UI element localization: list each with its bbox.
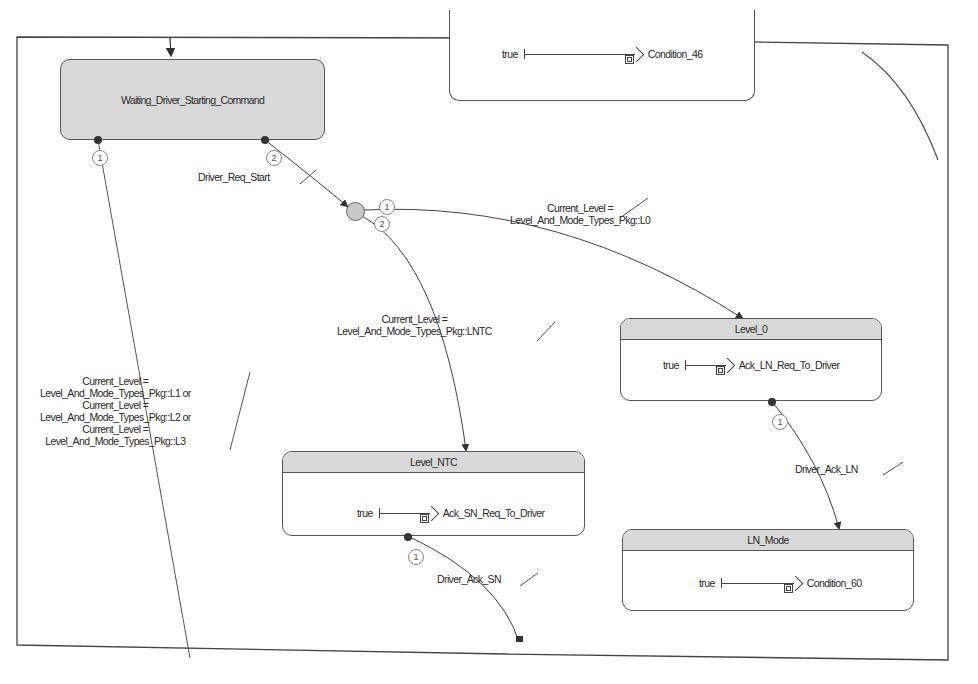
transition-order-badge: 1	[379, 199, 395, 215]
state-name: LN_Mode	[623, 530, 913, 551]
transition-source-dot	[768, 398, 776, 406]
state-name: Level_NTC	[283, 452, 584, 473]
action-condition: true	[663, 359, 679, 371]
transition-source-dot	[94, 136, 102, 144]
action-target: Condition_46	[648, 48, 703, 60]
state-ln-mode[interactable]: LN_Mode true Condition_60	[622, 529, 914, 611]
transition-source-dot	[261, 136, 269, 144]
state-action: true Condition_46	[502, 48, 702, 60]
transition-source-dot	[404, 533, 412, 541]
state-name: Waiting_Driver_Starting_Command	[61, 94, 324, 106]
action-condition: true	[699, 577, 715, 589]
label-line: Level_And_Mode_Types_Pkg::L3	[40, 435, 191, 447]
transition-label-l0[interactable]: Current_Level = Level_And_Mode_Types_Pkg…	[510, 202, 650, 226]
transition-order-badge: 1	[92, 150, 108, 166]
label-line: Level_And_Mode_Types_Pkg::L1 or	[40, 387, 191, 399]
label-line: Level_And_Mode_Types_Pkg::L2 or	[40, 411, 191, 423]
label-line: Level_And_Mode_Types_Pkg::LNTC	[337, 325, 492, 337]
state-action: true Ack_SN_Req_To_Driver	[357, 507, 545, 519]
transition-label-driver-ack-ln[interactable]: Driver_Ack_LN	[795, 463, 858, 475]
action-condition: true	[502, 48, 518, 60]
state-name: Level_0	[621, 319, 881, 340]
transition-order-badge: 2	[374, 216, 390, 232]
label-line: Current_Level =	[40, 399, 191, 411]
state-top-partial[interactable]: true Condition_46	[449, 10, 755, 101]
state-waiting-driver-starting-command[interactable]: Waiting_Driver_Starting_Command	[60, 59, 325, 140]
label-line: Current_Level =	[510, 202, 650, 214]
state-action: true Ack_LN_Req_To_Driver	[663, 359, 839, 371]
label-line: Current_Level =	[40, 375, 191, 387]
action-arrow	[721, 578, 794, 588]
state-level-ntc[interactable]: Level_NTC true Ack_SN_Req_To_Driver	[282, 451, 585, 536]
transition-label-driver-ack-sn[interactable]: Driver_Ack_SN	[437, 573, 501, 585]
label-line: Current_Level =	[337, 313, 492, 325]
transition-label-lntc[interactable]: Current_Level = Level_And_Mode_Types_Pkg…	[337, 313, 492, 337]
state-action: true Condition_60	[699, 577, 861, 589]
action-condition: true	[357, 507, 373, 519]
transition-label-driver-req-start[interactable]: Driver_Req_Start	[198, 171, 270, 183]
action-arrow	[524, 49, 635, 59]
junction-node[interactable]	[346, 202, 365, 221]
action-arrow	[379, 508, 430, 518]
label-line: Level_And_Mode_Types_Pkg::L0	[510, 214, 650, 226]
transition-order-badge: 1	[408, 549, 424, 565]
diagram-canvas: Waiting_Driver_Starting_Command 1 2 Driv…	[0, 0, 978, 684]
label-line: Current_Level =	[40, 423, 191, 435]
action-target: Ack_LN_Req_To_Driver	[739, 359, 840, 371]
state-level-0[interactable]: Level_0 true Ack_LN_Req_To_Driver	[620, 318, 882, 401]
action-target: Condition_60	[807, 577, 862, 589]
action-target: Ack_SN_Req_To_Driver	[443, 507, 545, 519]
transition-order-badge: 2	[266, 150, 282, 166]
transition-order-badge: 1	[772, 414, 788, 430]
transition-label-l1-l2-l3[interactable]: Current_Level = Level_And_Mode_Types_Pkg…	[40, 375, 191, 447]
